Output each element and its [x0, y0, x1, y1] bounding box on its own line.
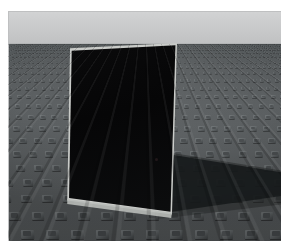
- 3d-render-viewport: [8, 11, 281, 241]
- panel-dark-face: [65, 43, 177, 218]
- panel-surface-mark: [155, 158, 158, 161]
- screenshot-canvas: [0, 0, 281, 241]
- panel-group: [8, 11, 281, 241]
